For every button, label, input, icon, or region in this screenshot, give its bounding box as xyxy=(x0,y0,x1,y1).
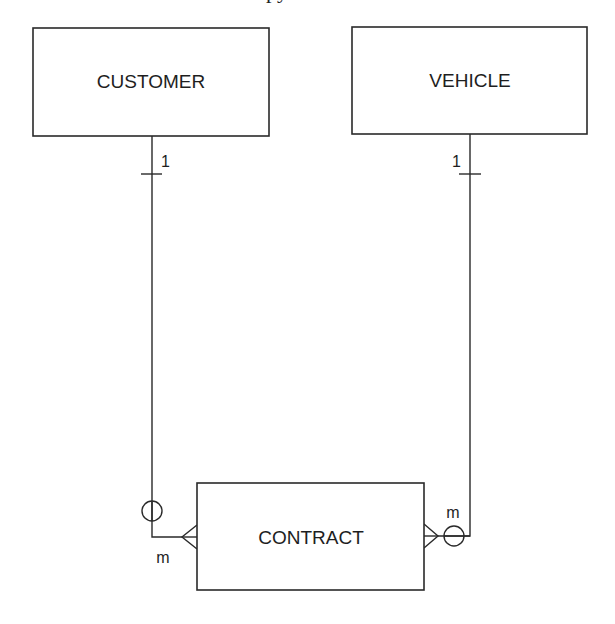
relationship-customer-contract: 1 m xyxy=(141,136,197,566)
entity-customer: CUSTOMER xyxy=(33,28,269,136)
clipped-title-fragment: py xyxy=(266,0,288,3)
entity-vehicle: VEHICLE xyxy=(352,27,587,134)
relationship-vehicle-contract: 1 m xyxy=(424,134,481,548)
connector-line-customer xyxy=(152,136,182,537)
entity-contract: CONTRACT xyxy=(197,483,424,590)
cardinality-label-contract-right: m xyxy=(446,504,459,521)
cardinality-label-customer: 1 xyxy=(161,153,170,170)
cardinality-label-contract-left: m xyxy=(156,549,169,566)
cardinality-label-vehicle: 1 xyxy=(452,153,461,170)
entity-contract-label: CONTRACT xyxy=(258,527,364,548)
connector-line-vehicle xyxy=(438,134,470,536)
entity-vehicle-label: VEHICLE xyxy=(429,70,510,91)
er-diagram: py CUSTOMER VEHICLE 1 m 1 m CONTRACT xyxy=(0,0,615,624)
entity-customer-label: CUSTOMER xyxy=(97,71,205,92)
